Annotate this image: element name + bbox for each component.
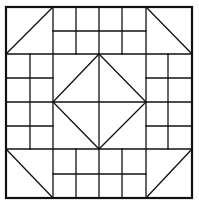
quilt-block-diagram: [0, 0, 199, 204]
top-edge-grid: [53, 7, 146, 54]
corner-bottom-left-diagonal: [6, 149, 53, 198]
corner-bottom-right-diagonal: [146, 149, 192, 198]
corner-top-right-diagonal: [146, 7, 192, 54]
right-edge-grid: [146, 54, 192, 149]
left-edge-grid: [6, 54, 53, 149]
corner-top-left-diagonal: [6, 7, 53, 54]
bottom-edge-grid: [53, 149, 146, 198]
center-diamond: [53, 54, 146, 149]
